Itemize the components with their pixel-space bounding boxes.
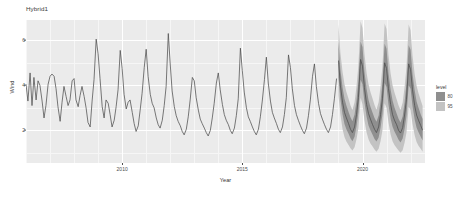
- legend-item[interactable]: 80: [436, 92, 476, 101]
- legend: level 8095: [436, 84, 476, 112]
- legend-label: 95: [448, 104, 453, 109]
- plot-area: [26, 20, 425, 163]
- y-axis-tick-mark: [24, 85, 26, 86]
- y-axis-tick-mark: [24, 40, 26, 41]
- legend-item[interactable]: 95: [436, 102, 476, 111]
- legend-title: level: [436, 84, 476, 90]
- forecast-chart: Hybrid1 246 201020152020 Year Wind level…: [0, 0, 476, 200]
- legend-key: [436, 102, 445, 111]
- legend-label: 80: [448, 94, 453, 99]
- x-axis-tick-mark: [122, 163, 123, 165]
- legend-swatch: [436, 102, 445, 111]
- x-axis-tick-label: 2020: [357, 166, 368, 172]
- chart-title: Hybrid1: [26, 5, 48, 12]
- x-axis-label: Year: [26, 177, 425, 183]
- legend-key: [436, 92, 445, 101]
- x-axis-tick-mark: [242, 163, 243, 165]
- plot-panel: [26, 20, 425, 163]
- legend-entries: 8095: [436, 92, 476, 111]
- x-axis-tick-mark: [363, 163, 364, 165]
- y-axis-label: Wind: [9, 67, 15, 107]
- historical-series-line: [26, 34, 337, 136]
- legend-swatch: [436, 92, 445, 101]
- x-axis-tick-label: 2010: [117, 166, 128, 172]
- y-axis-tick-mark: [24, 130, 26, 131]
- x-axis-tick-label: 2015: [237, 166, 248, 172]
